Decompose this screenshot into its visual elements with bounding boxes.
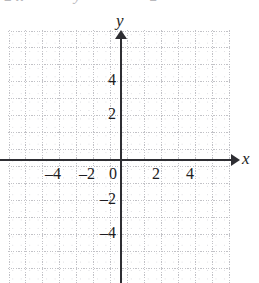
x-axis-label: x: [242, 150, 250, 167]
y-axis-line: [120, 38, 122, 283]
y-axis-arrow-icon: [115, 30, 127, 39]
x-tick-label: 2: [152, 166, 160, 182]
figure-canvas: 24. y =2: [0, 0, 259, 283]
gridline-vertical: [127, 30, 128, 283]
clipped-header-remnant: 24. y =2: [0, 0, 259, 11]
gridline-vertical: [110, 30, 111, 283]
y-tick-label: –2: [92, 191, 116, 207]
gridline-vertical: [9, 30, 10, 283]
x-tick-label: –4: [45, 166, 61, 182]
y-tick-label: 4: [100, 72, 116, 88]
gridline-vertical: [178, 30, 179, 283]
clipped-header-right: =2: [140, 0, 158, 4]
x-axis-arrow-icon: [231, 154, 240, 166]
y-tick-label: –4: [92, 225, 116, 241]
gridline-vertical: [59, 30, 60, 283]
gridline-vertical: [144, 30, 145, 283]
gridline-vertical: [161, 30, 162, 283]
y-tick-label: 2: [100, 106, 116, 122]
gridline-vertical: [25, 30, 26, 283]
x-tick-label: –2: [79, 166, 95, 182]
gridline-vertical: [93, 30, 94, 283]
x-tick-label: 4: [186, 166, 194, 182]
y-axis-label: y: [116, 12, 124, 29]
x-tick-label: 0: [109, 166, 117, 182]
clipped-header-left: 24.: [4, 0, 24, 4]
clipped-header-mid: y: [74, 0, 81, 4]
gridline-vertical: [42, 30, 43, 283]
gridline-vertical: [229, 30, 230, 283]
gridline-vertical: [76, 30, 77, 283]
gridline-vertical: [212, 30, 213, 283]
gridline-vertical: [195, 30, 196, 283]
x-axis-line: [0, 159, 233, 161]
